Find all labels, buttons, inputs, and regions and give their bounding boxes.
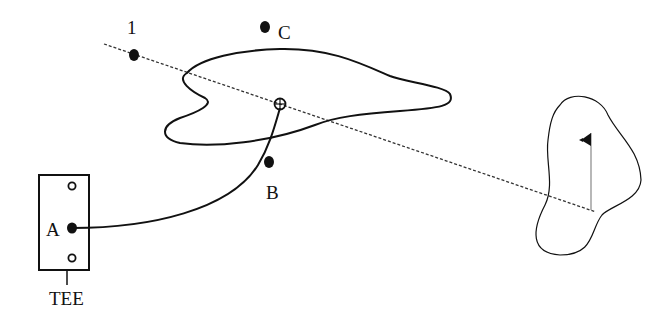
label-a: A — [46, 219, 60, 240]
tee-marker-top — [68, 182, 75, 189]
point-c-dot — [260, 21, 270, 33]
water-hazard — [165, 49, 451, 145]
label-b: B — [266, 182, 279, 203]
green — [536, 96, 641, 255]
target-line — [104, 44, 596, 212]
golf-hole-diagram: 1 C B A TEE — [0, 0, 671, 323]
flag-tip — [579, 138, 583, 142]
label-c: C — [278, 22, 291, 43]
shot-path — [72, 108, 280, 228]
tee-marker-bottom — [68, 254, 75, 261]
label-tee: TEE — [49, 288, 84, 309]
point-b-dot — [264, 156, 274, 168]
point-a-dot — [67, 223, 77, 234]
label-1: 1 — [127, 17, 137, 38]
point-1-dot — [129, 49, 139, 61]
